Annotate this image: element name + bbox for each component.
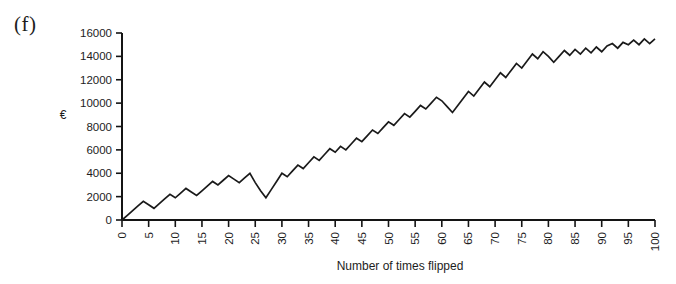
x-tick-label: 25 — [249, 232, 261, 245]
x-tick-label: 80 — [542, 232, 554, 245]
x-tick-label: 35 — [303, 232, 315, 245]
y-tick-label: 14000 — [80, 50, 112, 62]
x-tick-label: 0 — [116, 232, 128, 238]
x-tick-label: 70 — [489, 232, 501, 245]
x-tick-label: 20 — [223, 232, 235, 245]
x-axis-title: Number of times flipped — [337, 259, 464, 273]
x-tick-label: 90 — [596, 232, 608, 245]
x-tick-label: 5 — [143, 232, 155, 238]
y-tick-label: 12000 — [80, 74, 112, 86]
y-tick-label: 8000 — [86, 121, 112, 133]
x-tick-label: 50 — [383, 232, 395, 245]
x-tick-label: 45 — [356, 232, 368, 245]
y-axis-ticks: 0200040006000800010000120001400016000 — [80, 27, 122, 226]
y-tick-label: 10000 — [80, 97, 112, 109]
x-axis-ticks: 0510152025303540455055606570758085909510… — [116, 220, 661, 251]
data-series-line — [122, 39, 655, 220]
x-tick-label: 85 — [569, 232, 581, 245]
x-tick-label: 60 — [436, 232, 448, 245]
figure-panel: (f) 020004000600080001000012000140001600… — [0, 0, 676, 284]
x-tick-label: 65 — [462, 232, 474, 245]
x-tick-label: 75 — [516, 232, 528, 245]
y-axis-title: € — [60, 108, 67, 122]
line-chart: 0200040006000800010000120001400016000 05… — [0, 0, 676, 284]
x-tick-label: 30 — [276, 232, 288, 245]
y-tick-label: 2000 — [86, 191, 112, 203]
x-tick-label: 15 — [196, 232, 208, 245]
x-tick-label: 95 — [622, 232, 634, 245]
y-tick-label: 6000 — [86, 144, 112, 156]
x-tick-label: 10 — [169, 232, 181, 245]
x-tick-label: 55 — [409, 232, 421, 245]
y-tick-label: 0 — [106, 214, 112, 226]
y-tick-label: 4000 — [86, 167, 112, 179]
y-tick-label: 16000 — [80, 27, 112, 39]
x-tick-label: 40 — [329, 232, 341, 245]
x-tick-label: 100 — [649, 232, 661, 251]
